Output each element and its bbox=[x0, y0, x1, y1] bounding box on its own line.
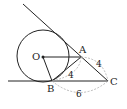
segment-ob bbox=[43, 57, 52, 81]
length-ac: 4 bbox=[96, 59, 102, 69]
diagram-canvas: O A B C 4 4 6 bbox=[0, 0, 127, 109]
label-a: A bbox=[78, 44, 87, 55]
length-ab: 4 bbox=[68, 70, 74, 80]
label-o: O bbox=[32, 51, 40, 62]
point-o-dot bbox=[42, 56, 45, 59]
geometry-diagram: O A B C 4 4 6 bbox=[0, 0, 127, 109]
label-c: C bbox=[110, 76, 118, 87]
segment-ab bbox=[52, 57, 81, 81]
label-b: B bbox=[47, 83, 54, 94]
length-bc: 6 bbox=[76, 89, 82, 99]
